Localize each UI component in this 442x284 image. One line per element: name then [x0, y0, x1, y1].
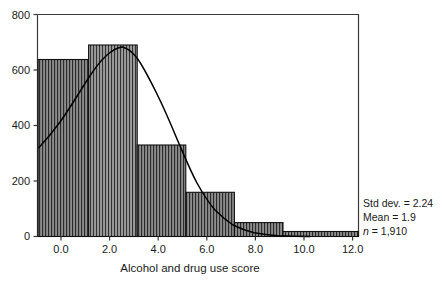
x-tick-label-12: 12.0 [342, 243, 363, 255]
histogram-bar [137, 145, 186, 237]
std-dev-label: Std dev. = 2.24 [363, 197, 433, 209]
sample-size-value: = 1,910 [369, 225, 407, 237]
y-tick-label-200: 200 [12, 175, 30, 187]
y-tick-label-600: 600 [12, 64, 30, 76]
x-tick-label-0: 0.0 [53, 243, 68, 255]
x-tick-label-2: 2.0 [102, 243, 117, 255]
mean-label: Mean = 1.9 [363, 211, 416, 223]
y-tick-label-0: 0 [24, 230, 30, 242]
y-tick-label-400: 400 [12, 119, 30, 131]
sample-size-label: n = 1,910 [363, 225, 407, 237]
histogram-bar [186, 192, 235, 236]
histogram-chart: 0 200 400 600 800 [0, 0, 442, 284]
x-tick-label-10: 10.0 [293, 243, 314, 255]
histogram-bars [38, 45, 359, 237]
histogram-figure: 0 200 400 600 800 [0, 0, 442, 284]
x-axis-title: Alcohol and drug use score [120, 262, 259, 274]
y-axis-tick-labels: 0 200 400 600 800 [12, 9, 30, 243]
y-tick-label-800: 800 [12, 9, 30, 21]
histogram-bar [38, 60, 89, 237]
x-axis-tick-labels: 0.0 2.0 4.0 6.0 8.0 10.0 12.0 [53, 243, 363, 255]
histogram-bar [89, 45, 138, 237]
x-tick-label-8: 8.0 [248, 243, 263, 255]
statistics-annotation: Std dev. = 2.24 Mean = 1.9 n = 1,910 [363, 197, 433, 237]
x-tick-label-6: 6.0 [199, 243, 214, 255]
x-tick-label-4: 4.0 [151, 243, 166, 255]
